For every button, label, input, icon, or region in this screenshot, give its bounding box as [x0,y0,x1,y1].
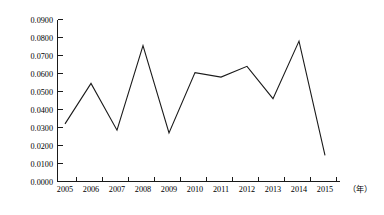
y-axis-label-5: 0.0400 [30,106,53,115]
x-axis-unit-label: （年） [348,184,372,194]
y-axis-label-0: 0.0900 [30,16,53,25]
x-axis-label-7: 2012 [239,185,255,194]
x-axis-label-3: 2008 [135,185,151,194]
line-chart: 0.0900 0.0800 0.0700 0.0600 0.0500 0.040… [0,0,384,215]
x-axis-label-8: 2013 [265,185,281,194]
y-axis-label-8: 0.0100 [30,160,53,169]
y-axis-label-4: 0.0500 [30,88,53,97]
x-axis-label-2: 2007 [109,185,125,194]
y-axis-label-2: 0.0700 [30,52,53,61]
x-axis-label-6: 2011 [213,185,229,194]
x-axis-label-4: 2009 [161,185,177,194]
x-axis-label-0: 2005 [57,185,73,194]
y-axis-label-9: 0.0000 [30,178,53,187]
y-axis-label-6: 0.0300 [30,124,53,133]
x-axis-label-9: 2014 [291,185,307,194]
chart-canvas: 0.0900 0.0800 0.0700 0.0600 0.0500 0.040… [0,0,384,215]
y-axis-label-1: 0.0800 [30,34,53,43]
y-axis-label-3: 0.0600 [30,70,53,79]
x-axis-label-10: 2015 [317,185,333,194]
x-axis-label-5: 2010 [187,185,203,194]
y-axis-label-7: 0.0200 [30,142,53,151]
x-axis-label-1: 2006 [83,185,99,194]
